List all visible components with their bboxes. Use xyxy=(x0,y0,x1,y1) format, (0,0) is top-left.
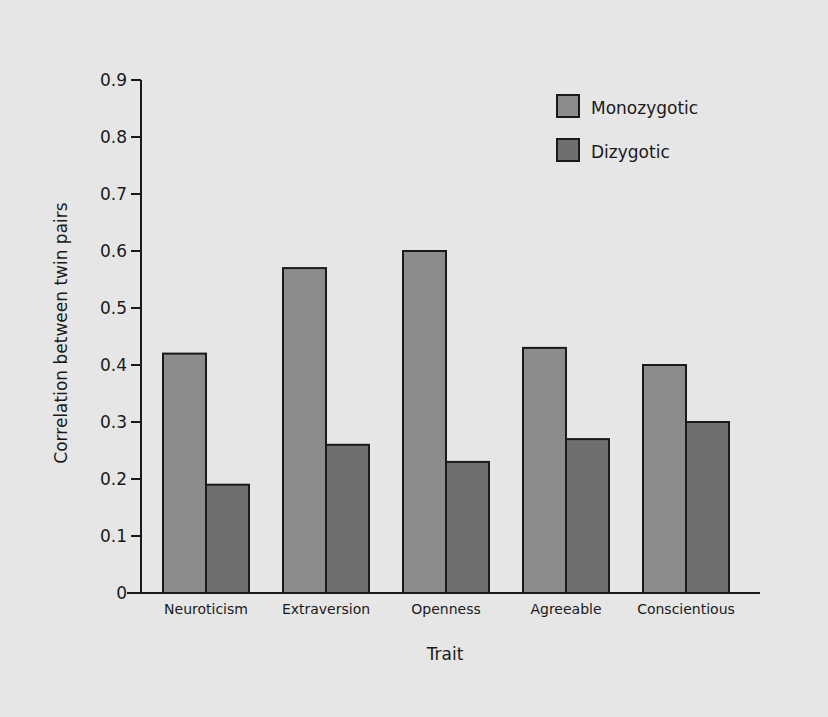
y-tick-label: 0.1 xyxy=(100,526,127,546)
bar-group-openness xyxy=(403,251,489,593)
category-label: Agreeable xyxy=(530,601,601,617)
bar-chart: 00.10.20.30.40.50.60.70.80.9 Neuroticism… xyxy=(0,0,828,717)
bar-group-conscientious xyxy=(643,365,729,593)
y-tick-label: 0.8 xyxy=(100,127,127,147)
y-tick-label: 0.9 xyxy=(100,70,127,90)
legend-label: Dizygotic xyxy=(591,142,670,162)
bar-dizygotic-extraversion xyxy=(326,445,369,593)
y-tick-label: 0.2 xyxy=(100,469,127,489)
category-label: Extraversion xyxy=(282,601,370,617)
bar-monozygotic-openness xyxy=(403,251,446,593)
bar-monozygotic-neuroticism xyxy=(163,354,206,593)
y-tick-label: 0.7 xyxy=(100,184,127,204)
bar-monozygotic-extraversion xyxy=(283,268,326,593)
y-axis-title: Correlation between twin pairs xyxy=(51,202,71,463)
legend-swatch xyxy=(557,139,579,161)
bar-dizygotic-neuroticism xyxy=(206,485,249,593)
category-label: Conscientious xyxy=(637,601,735,617)
legend-swatch xyxy=(557,95,579,117)
y-tick-label: 0.6 xyxy=(100,241,127,261)
bar-group-neuroticism xyxy=(163,354,249,593)
bar-dizygotic-agreeable xyxy=(566,439,609,593)
y-tick-label: 0.4 xyxy=(100,355,127,375)
bar-dizygotic-conscientious xyxy=(686,422,729,593)
bar-group-extraversion xyxy=(283,268,369,593)
category-label: Neuroticism xyxy=(164,601,248,617)
legend-item-monozygotic: Monozygotic xyxy=(557,95,698,118)
legend-label: Monozygotic xyxy=(591,98,698,118)
legend: MonozygoticDizygotic xyxy=(557,95,698,162)
bar-dizygotic-openness xyxy=(446,462,489,593)
y-tick-label: 0.3 xyxy=(100,412,127,432)
bars xyxy=(163,251,729,593)
bar-group-agreeable xyxy=(523,348,609,593)
y-axis: 00.10.20.30.40.50.60.70.80.9 xyxy=(100,70,141,603)
category-label: Openness xyxy=(411,601,480,617)
category-labels: NeuroticismExtraversionOpennessAgreeable… xyxy=(164,601,735,617)
bar-monozygotic-agreeable xyxy=(523,348,566,593)
y-tick-label: 0.5 xyxy=(100,298,127,318)
x-axis-title: Trait xyxy=(426,644,464,664)
bar-monozygotic-conscientious xyxy=(643,365,686,593)
legend-item-dizygotic: Dizygotic xyxy=(557,139,670,162)
y-tick-label: 0 xyxy=(116,583,127,603)
